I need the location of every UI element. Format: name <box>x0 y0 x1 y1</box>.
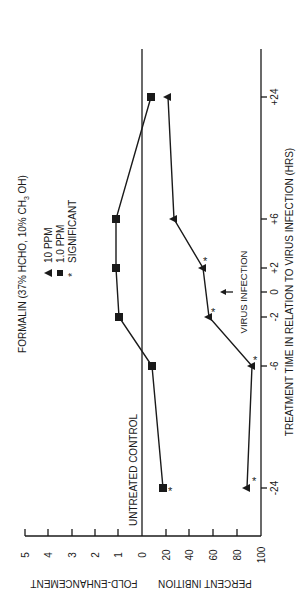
percent-inhibition-label: PERCENT INBITION <box>158 578 252 589</box>
tick-fold-1: 1 <box>113 552 124 558</box>
tick-pct-20: 20 <box>161 549 172 561</box>
value-axis-ticks <box>25 529 237 536</box>
asterisk-icon: * <box>211 306 216 318</box>
tick-time-p6: +6 <box>269 213 280 225</box>
tick-fold-5: 5 <box>20 552 31 558</box>
asterisk-icon: * <box>168 485 173 497</box>
chart-title: FORMALIN (37% HCHO, 10% CH3 OH) <box>17 175 30 353</box>
legend-significant: SIGNIFICANT <box>67 200 78 263</box>
tick-time-m2: -2 <box>269 312 280 321</box>
asterisk-icon: * <box>203 255 208 267</box>
series-1ppm-markers <box>112 93 167 492</box>
time-tick-labels: -24 -6 -2 0 +2 +6 +24 <box>269 88 280 495</box>
tick-time-p24: +24 <box>269 88 280 105</box>
tick-fold-0: 0 <box>137 552 148 558</box>
legend: 10 PPM 1.0 PPM * SIGNIFICANT <box>43 200 78 277</box>
asterisk-icon: * <box>252 475 257 487</box>
tick-fold-2: 2 <box>90 552 101 558</box>
time-axis-ticks <box>261 97 267 488</box>
tick-pct-60: 60 <box>208 549 219 561</box>
tick-pct-100: 100 <box>256 546 267 563</box>
tick-time-m24: -24 <box>269 480 280 495</box>
triangle-icon <box>44 269 52 277</box>
tick-fold-4: 4 <box>43 552 54 558</box>
legend-10ppm: 10 PPM <box>43 227 54 263</box>
tick-fold-3: 3 <box>67 552 78 558</box>
value-tick-labels: 5 4 3 2 1 0 20 40 60 80 100 <box>20 546 267 563</box>
arrow-icon <box>220 289 233 295</box>
tick-time-0: 0 <box>269 289 280 295</box>
legend-1ppm: 1.0 PPM <box>55 225 66 263</box>
tick-pct-40: 40 <box>184 549 195 561</box>
tick-time-p2: +2 <box>269 262 280 274</box>
asterisk-icon: * <box>253 354 258 366</box>
tick-pct-80: 80 <box>232 549 243 561</box>
virus-infection-label: VIRUS INFECTION <box>238 250 249 333</box>
tick-time-m6: -6 <box>269 361 280 370</box>
square-icon <box>57 270 63 276</box>
series-1ppm-line <box>116 97 163 488</box>
control-label: UNTREATED CONTROL <box>128 414 139 526</box>
fold-enhancement-label: FOLD-ENHANCEMENT <box>30 578 137 589</box>
asterisk-icon: * <box>66 272 78 277</box>
formalin-chart: 5 4 3 2 1 0 20 40 60 80 100 FOLD-ENHANCE… <box>0 0 300 610</box>
time-axis-label: TREATMENT TIME IN RELATION TO VIRUS INFE… <box>284 148 295 436</box>
